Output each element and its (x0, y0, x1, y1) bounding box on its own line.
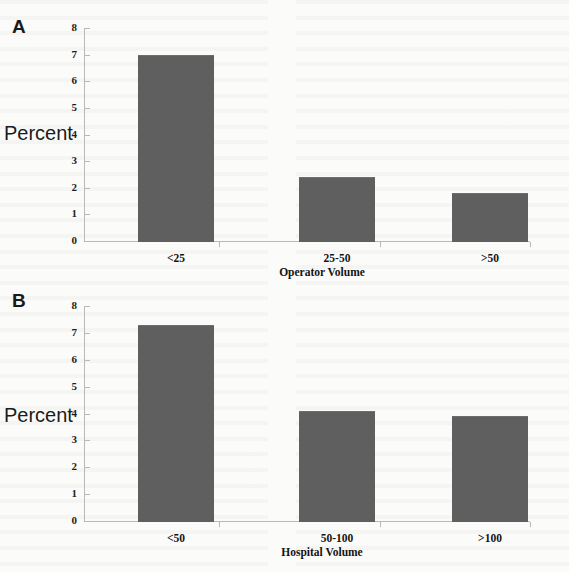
x-axis-category-label: >50 (430, 252, 550, 264)
y-axis-tick (85, 494, 90, 495)
y-axis-tick-label: 6 (55, 74, 77, 86)
y-axis-tick-label: 8 (55, 21, 77, 33)
y-axis-tick (85, 81, 90, 82)
y-axis-tick (85, 214, 90, 215)
y-axis-tick-label: 6 (55, 353, 77, 365)
y-axis-tick-label: 7 (55, 48, 77, 60)
y-axis-tick-label: 2 (55, 460, 77, 472)
x-axis-category-label: 25-50 (277, 252, 397, 264)
chart-panel-a: A Percent 012345678<2525-50>50Operator V… (0, 0, 569, 286)
chart-panel-b: B Percent 012345678<5050-100>100Hospital… (0, 286, 569, 572)
y-axis-tick-label: 3 (55, 433, 77, 445)
y-axis-tick (85, 521, 90, 522)
x-axis-category-label: >100 (430, 532, 550, 544)
x-axis-title: Operator Volume (232, 266, 412, 278)
y-axis-tick (85, 467, 90, 468)
y-axis-tick (85, 188, 90, 189)
y-axis-tick (85, 135, 90, 136)
x-axis-category-label: <25 (116, 252, 236, 264)
bar (452, 416, 528, 522)
y-axis-tick-label: 5 (55, 380, 77, 392)
x-axis-tick (530, 242, 531, 247)
y-axis-tick (85, 333, 90, 334)
y-axis-tick (85, 108, 90, 109)
bar (138, 55, 214, 242)
y-axis-tick-label: 4 (55, 407, 77, 419)
y-axis-tick-label: 3 (55, 154, 77, 166)
y-axis-tick (85, 440, 90, 441)
bar (452, 193, 528, 242)
y-axis-tick (85, 241, 90, 242)
x-axis-tick (530, 522, 531, 527)
y-axis-tick-label: 8 (55, 299, 77, 311)
y-axis-tick (85, 28, 90, 29)
x-axis-tick (380, 522, 381, 527)
y-axis-tick (85, 387, 90, 388)
y-axis-tick (85, 55, 90, 56)
y-axis-tick-label: 0 (55, 234, 77, 246)
y-axis-tick-label: 1 (55, 487, 77, 499)
y-axis-tick-label: 4 (55, 128, 77, 140)
panel-letter-b: B (12, 290, 26, 312)
bar (138, 325, 214, 522)
y-axis-tick-label: 1 (55, 207, 77, 219)
panel-letter-a: A (12, 16, 26, 38)
y-axis-tick-label: 0 (55, 514, 77, 526)
y-axis-tick (85, 360, 90, 361)
y-axis-tick (85, 414, 90, 415)
bar (299, 411, 375, 522)
y-axis-tick (85, 161, 90, 162)
x-axis-title: Hospital Volume (232, 546, 412, 558)
x-axis-tick (219, 242, 220, 247)
bar (299, 177, 375, 242)
x-axis-tick (380, 242, 381, 247)
y-axis-tick-label: 2 (55, 181, 77, 193)
x-axis-category-label: 50-100 (277, 532, 397, 544)
x-axis-tick (219, 522, 220, 527)
x-axis-category-label: <50 (116, 532, 236, 544)
y-axis-tick-label: 7 (55, 326, 77, 338)
y-axis-tick-label: 5 (55, 101, 77, 113)
y-axis-tick (85, 306, 90, 307)
